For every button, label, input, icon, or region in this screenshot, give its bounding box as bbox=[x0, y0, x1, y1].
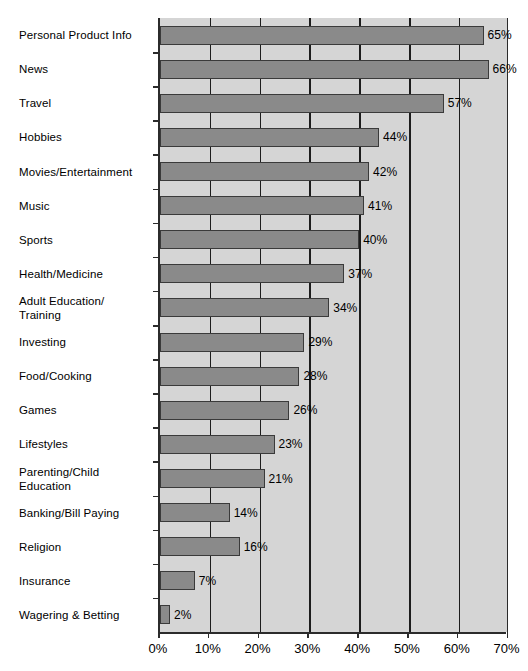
category-label: Hobbies bbox=[0, 130, 142, 144]
bar-value-label: 21% bbox=[269, 473, 293, 485]
x-axis-line bbox=[158, 632, 506, 634]
bar-value-label: 65% bbox=[488, 29, 512, 41]
bar bbox=[160, 503, 230, 522]
bar-value-label: 66% bbox=[493, 63, 517, 75]
bar-value-label: 57% bbox=[448, 97, 472, 109]
category-label-line: News bbox=[0, 62, 142, 76]
category-label-line: Religion bbox=[0, 540, 142, 554]
y-axis-tick bbox=[153, 359, 160, 361]
category-label: Religion bbox=[0, 540, 142, 554]
bar bbox=[160, 367, 299, 386]
y-axis-tick bbox=[153, 86, 160, 88]
x-axis-tick bbox=[407, 632, 409, 638]
x-axis-tick bbox=[258, 632, 260, 638]
category-label: Parenting/ChildEducation bbox=[0, 465, 142, 493]
y-axis-tick bbox=[153, 564, 160, 566]
category-label-line: Food/Cooking bbox=[0, 369, 142, 383]
category-label: Food/Cooking bbox=[0, 369, 142, 383]
bar bbox=[160, 60, 489, 79]
bar-value-label: 42% bbox=[373, 166, 397, 178]
x-axis-tick-label: 70% bbox=[493, 641, 519, 656]
y-axis-tick bbox=[153, 598, 160, 600]
bar-value-label: 23% bbox=[279, 438, 303, 450]
bar bbox=[160, 333, 304, 352]
bar-value-label: 14% bbox=[234, 507, 258, 519]
bar bbox=[160, 264, 344, 283]
bar bbox=[160, 537, 240, 556]
x-axis-tick-label: 60% bbox=[444, 641, 470, 656]
bar-value-label: 34% bbox=[333, 302, 357, 314]
category-label: News bbox=[0, 62, 142, 76]
bar bbox=[160, 94, 444, 113]
category-label-line: Investing bbox=[0, 335, 142, 349]
category-label: Travel bbox=[0, 96, 142, 110]
bar bbox=[160, 162, 369, 181]
gridline bbox=[459, 18, 461, 632]
bar-value-label: 40% bbox=[363, 234, 387, 246]
bar bbox=[160, 469, 265, 488]
y-axis-tick bbox=[153, 257, 160, 259]
bar bbox=[160, 605, 170, 624]
x-axis-tick bbox=[507, 632, 509, 638]
category-label-line: Travel bbox=[0, 96, 142, 110]
category-label-line: Adult Education/ bbox=[0, 294, 142, 308]
bar-value-label: 16% bbox=[244, 541, 268, 553]
bar bbox=[160, 401, 289, 420]
x-axis-tick-label: 20% bbox=[245, 641, 271, 656]
category-label: Games bbox=[0, 403, 142, 417]
y-axis-tick bbox=[153, 393, 160, 395]
plot-area: 65%66%57%44%42%41%40%37%34%29%28%26%23%2… bbox=[158, 18, 508, 632]
bar bbox=[160, 196, 364, 215]
category-label: Movies/Entertainment bbox=[0, 165, 142, 179]
category-label-line: Movies/Entertainment bbox=[0, 165, 142, 179]
bar-value-label: 41% bbox=[368, 200, 392, 212]
category-label-line: Lifestyles bbox=[0, 437, 142, 451]
bar bbox=[160, 298, 329, 317]
category-label-line: Banking/Bill Paying bbox=[0, 506, 142, 520]
bar-value-label: 7% bbox=[199, 575, 216, 587]
x-axis-tick-label: 50% bbox=[394, 641, 420, 656]
x-axis-tick bbox=[208, 632, 210, 638]
y-axis-tick bbox=[153, 291, 160, 293]
category-label-line: Sports bbox=[0, 233, 142, 247]
y-axis-tick bbox=[153, 325, 160, 327]
y-axis-tick bbox=[153, 189, 160, 191]
x-axis-tick-label: 40% bbox=[344, 641, 370, 656]
bar-value-label: 29% bbox=[308, 336, 332, 348]
category-label: Investing bbox=[0, 335, 142, 349]
category-label: Adult Education/Training bbox=[0, 294, 142, 322]
category-label: Lifestyles bbox=[0, 437, 142, 451]
bar-value-label: 44% bbox=[383, 131, 407, 143]
category-label: Music bbox=[0, 199, 142, 213]
category-label: Insurance bbox=[0, 574, 142, 588]
y-axis-tick bbox=[153, 427, 160, 429]
x-axis-tick bbox=[357, 632, 359, 638]
category-label: Sports bbox=[0, 233, 142, 247]
category-label-line: Games bbox=[0, 403, 142, 417]
category-label: Health/Medicine bbox=[0, 267, 142, 281]
category-label-line: Training bbox=[0, 308, 142, 322]
category-label-line: Insurance bbox=[0, 574, 142, 588]
y-axis-tick bbox=[153, 154, 160, 156]
bar-value-label: 2% bbox=[174, 609, 191, 621]
y-axis-tick bbox=[153, 530, 160, 532]
bar-value-label: 26% bbox=[293, 404, 317, 416]
category-label-line: Health/Medicine bbox=[0, 267, 142, 281]
x-axis-tick bbox=[457, 632, 459, 638]
category-label-line: Personal Product Info bbox=[0, 28, 142, 42]
bar-value-label: 37% bbox=[348, 268, 372, 280]
y-axis-tick bbox=[153, 496, 160, 498]
bar bbox=[160, 128, 379, 147]
category-label-line: Parenting/Child bbox=[0, 465, 142, 479]
x-axis-tick-label: 30% bbox=[294, 641, 320, 656]
y-axis-tick bbox=[153, 120, 160, 122]
x-axis-tick bbox=[158, 632, 160, 638]
bar-value-label: 28% bbox=[303, 370, 327, 382]
y-axis-tick bbox=[153, 223, 160, 225]
x-axis-tick bbox=[307, 632, 309, 638]
bar-chart: Personal Product InfoNewsTravelHobbiesMo… bbox=[0, 0, 528, 671]
bar bbox=[160, 571, 195, 590]
plot-inner: 65%66%57%44%42%41%40%37%34%29%28%26%23%2… bbox=[160, 18, 507, 632]
bar bbox=[160, 435, 275, 454]
bar bbox=[160, 230, 359, 249]
